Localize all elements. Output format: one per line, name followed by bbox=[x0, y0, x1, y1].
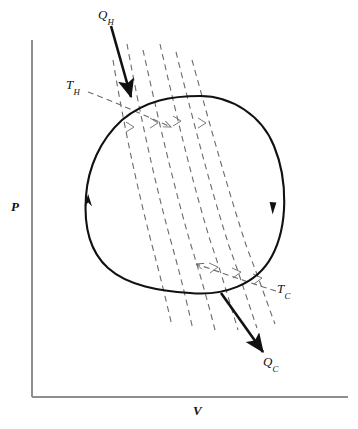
isotherm-tick-a bbox=[126, 122, 134, 132]
isotherm-curve-5 bbox=[176, 52, 257, 328]
x-axis-label: V bbox=[193, 404, 202, 417]
t-hot-leader-line bbox=[88, 92, 171, 127]
q-hot-label: QH bbox=[98, 8, 114, 24]
q-cold-label-sub: C bbox=[273, 364, 279, 374]
q-cold-label-base: Q bbox=[263, 354, 272, 369]
isotherm-group bbox=[113, 44, 275, 334]
cycle-direction-arrows bbox=[84, 194, 276, 215]
diagram-canvas bbox=[0, 0, 358, 429]
engine-cycle-loop bbox=[86, 96, 285, 294]
isotherm-curve-2 bbox=[127, 44, 193, 330]
q-cold-label: QC bbox=[263, 355, 278, 371]
t-cold-label-sub: C bbox=[284, 291, 290, 301]
q-cold-arrow bbox=[221, 293, 263, 352]
isotherm-curve-4 bbox=[160, 44, 238, 330]
q-hot-label-base: Q bbox=[98, 7, 107, 22]
pv-diagram-figure: QH QC TH TC P V bbox=[0, 0, 358, 429]
q-hot-arrow bbox=[111, 26, 131, 97]
t-hot-label-sub: H bbox=[73, 87, 79, 97]
y-axis-label: P bbox=[11, 200, 19, 213]
right-branch-arrow bbox=[270, 202, 277, 215]
q-hot-label-sub: H bbox=[108, 17, 114, 27]
t-hot-label: TH bbox=[66, 78, 80, 94]
t-cold-label: TC bbox=[277, 282, 290, 298]
isotherm-tick-d bbox=[198, 118, 206, 128]
isotherm-curve-6 bbox=[192, 60, 275, 324]
